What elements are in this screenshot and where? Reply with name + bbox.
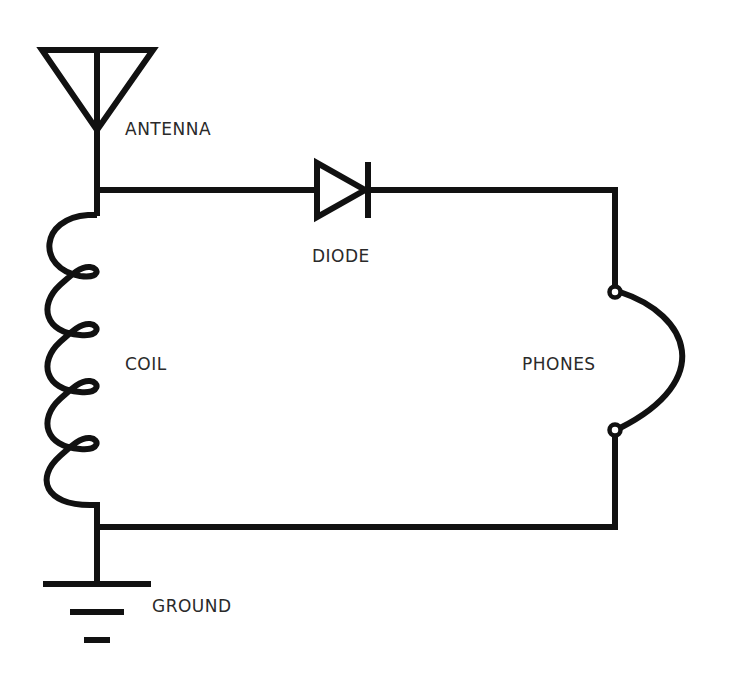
top-wire — [94, 190, 615, 287]
antenna-label: ANTENNA — [125, 119, 211, 139]
ground-label: GROUND — [152, 596, 232, 616]
coil-label: COIL — [125, 354, 167, 374]
diode-label: DIODE — [312, 246, 370, 266]
phones-label: PHONES — [522, 354, 596, 374]
ground-symbol — [43, 527, 151, 640]
coil-symbol — [47, 215, 97, 527]
bottom-wire — [97, 436, 615, 527]
phones-symbol — [610, 287, 683, 436]
diode-symbol — [317, 162, 368, 218]
circuit-diagram — [0, 0, 735, 680]
